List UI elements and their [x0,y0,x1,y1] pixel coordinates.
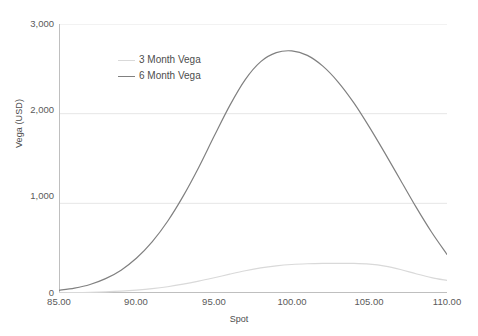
legend-item-6-month-vega: 6 Month Vega [118,68,201,84]
series-lines [59,51,447,293]
legend-item-3-month-vega: 3 Month Vega [118,52,201,68]
y-axis-tick-labels: 3,000 2,000 1,000 0 [0,0,54,336]
legend-color-swatch [118,60,135,61]
legend-item-label: 6 Month Vega [139,68,201,84]
series-line-0 [59,263,447,293]
y-tick-label: 3,000 [8,19,54,29]
x-tick-label: 110.00 [422,296,472,307]
x-tick-label: 90.00 [111,296,161,307]
chart-legend: 3 Month Vega 6 Month Vega [118,52,201,84]
legend-item-label: 3 Month Vega [139,52,201,68]
x-tick-label: 85.00 [34,296,84,307]
x-tick-label: 105.00 [344,296,394,307]
series-line-1 [59,51,447,291]
y-tick-label: 2,000 [8,105,54,115]
x-tick-label: 100.00 [267,296,317,307]
x-axis-title: Spot [0,314,478,324]
legend-color-swatch [118,76,135,77]
gridlines [59,24,447,203]
x-tick-label: 95.00 [189,296,239,307]
vega-line-chart: Vega (USD) 3,000 2,000 1,000 0 85.00 90.… [0,0,478,336]
y-tick-label: 1,000 [8,191,54,201]
